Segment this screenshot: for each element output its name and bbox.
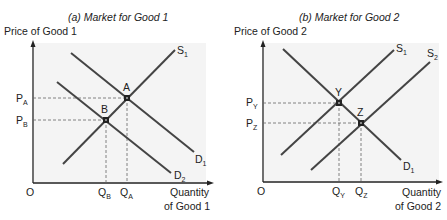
panel-b: (b) Market for Good 2 Price of Good 2 O … xyxy=(234,11,443,212)
supply-demand-diagram: (a) Market for Good 1 Price of Good 1 O … xyxy=(0,0,447,220)
x-axis-arrow-icon xyxy=(436,180,443,185)
panel-a-x-axis-label-2: of Good 1 xyxy=(164,200,210,212)
panel-b-x-axis-label-1: Quantity xyxy=(402,186,442,198)
point-y-label: Y xyxy=(335,86,342,98)
panel-a: (a) Market for Good 1 Price of Good 1 O … xyxy=(4,11,214,212)
qty-label-qa: QA xyxy=(120,186,133,200)
price-label-pb: PB xyxy=(16,114,28,128)
qty-label-qz: QZ xyxy=(355,185,368,199)
x-axis-arrow-icon xyxy=(207,181,214,186)
panel-b-y-axis-label: Price of Good 2 xyxy=(234,25,307,37)
panel-a-title: (a) Market for Good 1 xyxy=(68,11,168,23)
price-label-pa: PA xyxy=(16,92,28,106)
point-z-label: Z xyxy=(357,106,364,118)
point-a-label: A xyxy=(123,81,130,93)
plot-background-b xyxy=(264,43,439,181)
point-b-label: B xyxy=(101,103,108,115)
panel-b-title: (b) Market for Good 2 xyxy=(299,11,400,23)
price-label-pz: PZ xyxy=(246,117,258,131)
panel-a-x-axis-label-1: Quantity xyxy=(170,186,210,198)
qty-label-qb: QB xyxy=(98,186,111,200)
price-label-py: PY xyxy=(246,96,258,110)
plot-background-a xyxy=(34,43,206,182)
panel-b-origin-label: O xyxy=(257,185,265,197)
panel-a-origin-label: O xyxy=(26,186,34,198)
panel-a-y-axis-label: Price of Good 1 xyxy=(4,25,77,37)
qty-label-qy: QY xyxy=(332,185,345,199)
panel-b-x-axis-label-2: of Good 2 xyxy=(395,200,441,212)
